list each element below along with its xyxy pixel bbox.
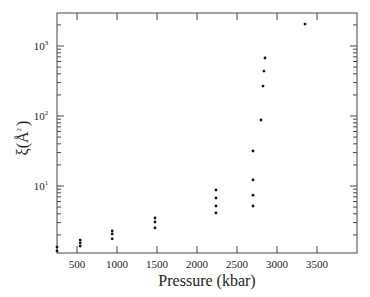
data-points [56,23,307,253]
x-tick-label: 1000 [106,258,129,270]
data-point [79,245,82,248]
data-point [56,246,59,249]
data-point [215,205,218,208]
y-axis-ticks: 101102103 [34,25,357,235]
y-tick-label: 101 [34,179,49,192]
data-point [264,57,267,60]
y-tick-label: 103 [34,39,49,52]
data-point [111,232,114,235]
data-point [215,189,218,192]
x-axis-ticks: 500100015002000250030003500 [69,13,329,270]
data-point [215,197,218,200]
y-tick-label: 102 [34,109,49,122]
data-point [56,250,59,253]
data-point [263,70,266,73]
data-point [79,239,82,242]
scatter-chart: 500100015002000250030003500 101102103 Pr… [0,0,370,297]
x-tick-label: 3000 [266,258,289,270]
data-point [111,230,114,233]
data-point [304,23,307,26]
data-point [262,85,265,88]
data-point [252,150,255,153]
plot-frame [57,13,357,253]
svg-text:ξ(Å2): ξ(Å2) [14,121,32,156]
y-axis-label: ξ(Å2) [14,121,32,156]
x-tick-label: 2500 [226,258,249,270]
x-tick-label: 2000 [186,258,209,270]
data-point [260,119,263,122]
x-tick-label: 3500 [306,258,329,270]
x-axis-label: Pressure (kbar) [158,272,255,290]
data-point [111,237,114,240]
data-point [154,217,157,220]
data-point [252,194,255,197]
data-point [154,227,157,230]
data-point [154,221,157,224]
data-point [215,212,218,215]
data-point [252,205,255,208]
x-tick-label: 500 [69,258,86,270]
x-tick-label: 1500 [146,258,169,270]
data-point [79,241,82,244]
data-point [252,179,255,182]
